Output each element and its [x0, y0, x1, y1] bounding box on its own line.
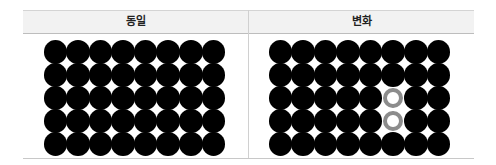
filled-circle — [404, 40, 428, 64]
filled-circle — [156, 86, 180, 110]
filled-circle — [314, 40, 338, 64]
filled-circle — [44, 132, 68, 156]
filled-circle — [202, 109, 226, 133]
filled-circle — [336, 63, 360, 87]
filled-circle — [291, 109, 315, 133]
filled-circle — [44, 63, 68, 87]
filled-circle — [111, 109, 135, 133]
filled-circle — [336, 109, 360, 133]
filled-circle — [314, 63, 338, 87]
filled-circle — [111, 63, 135, 87]
filled-circle — [202, 40, 226, 64]
filled-circle — [269, 63, 293, 87]
filled-circle — [134, 86, 158, 110]
filled-circle — [336, 132, 360, 156]
filled-circle — [336, 40, 360, 64]
filled-circle — [359, 86, 383, 110]
filled-circle — [44, 109, 68, 133]
filled-circle — [359, 132, 383, 156]
filled-circle — [156, 63, 180, 87]
filled-circle — [269, 40, 293, 64]
column-divider — [248, 10, 249, 158]
filled-circle — [66, 86, 90, 110]
filled-circle — [111, 86, 135, 110]
dot-grid-same — [44, 40, 225, 156]
filled-circle — [89, 109, 113, 133]
filled-circle — [427, 40, 451, 64]
hollow-circle — [383, 111, 403, 131]
filled-circle — [359, 40, 383, 64]
filled-circle — [359, 63, 383, 87]
filled-circle — [134, 132, 158, 156]
filled-circle — [202, 86, 226, 110]
filled-circle — [66, 63, 90, 87]
filled-circle — [427, 132, 451, 156]
filled-circle — [427, 109, 451, 133]
header-change: 변화 — [249, 11, 474, 33]
filled-circle — [359, 109, 383, 133]
dot-grid-change — [269, 40, 450, 156]
filled-circle — [156, 109, 180, 133]
filled-circle — [179, 63, 203, 87]
filled-circle — [291, 40, 315, 64]
filled-circle — [427, 63, 451, 87]
filled-circle — [89, 86, 113, 110]
filled-circle — [381, 132, 405, 156]
filled-circle — [179, 109, 203, 133]
filled-circle — [179, 132, 203, 156]
filled-circle — [134, 40, 158, 64]
filled-circle — [314, 132, 338, 156]
filled-circle — [44, 86, 68, 110]
filled-circle — [89, 40, 113, 64]
filled-circle — [291, 132, 315, 156]
filled-circle — [291, 86, 315, 110]
filled-circle — [291, 63, 315, 87]
filled-circle — [156, 40, 180, 64]
filled-circle — [381, 63, 405, 87]
filled-circle — [66, 132, 90, 156]
header-same: 동일 — [23, 11, 248, 33]
filled-circle — [66, 40, 90, 64]
filled-circle — [314, 109, 338, 133]
filled-circle — [404, 63, 428, 87]
filled-circle — [269, 109, 293, 133]
filled-circle — [202, 132, 226, 156]
filled-circle — [404, 109, 428, 133]
filled-circle — [134, 63, 158, 87]
filled-circle — [179, 86, 203, 110]
filled-circle — [427, 86, 451, 110]
filled-circle — [202, 63, 226, 87]
filled-circle — [89, 132, 113, 156]
filled-circle — [111, 40, 135, 64]
filled-circle — [111, 132, 135, 156]
hollow-circle — [383, 88, 403, 108]
filled-circle — [134, 109, 158, 133]
filled-circle — [404, 132, 428, 156]
filled-circle — [156, 132, 180, 156]
filled-circle — [314, 86, 338, 110]
filled-circle — [44, 40, 68, 64]
filled-circle — [269, 86, 293, 110]
filled-circle — [269, 132, 293, 156]
filled-circle — [404, 86, 428, 110]
filled-circle — [66, 109, 90, 133]
filled-circle — [89, 63, 113, 87]
filled-circle — [336, 86, 360, 110]
comparison-table: 동일 변화 — [23, 10, 474, 159]
filled-circle — [179, 40, 203, 64]
filled-circle — [381, 40, 405, 64]
